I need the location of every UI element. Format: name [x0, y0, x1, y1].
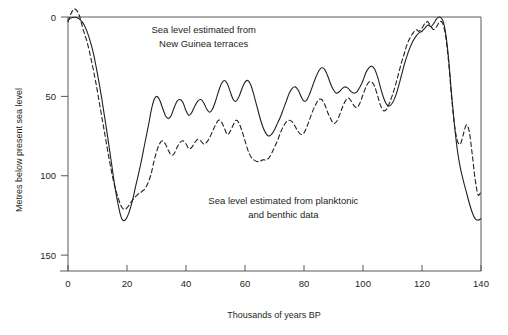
annotation-line: Sea level estimated from planktonic — [208, 195, 358, 206]
x-tick-label: 20 — [122, 278, 133, 289]
plot-frame — [60, 17, 481, 271]
plot-border — [68, 17, 481, 271]
annotation-line: Sea level estimated from — [151, 24, 256, 35]
x-axis-title: Thousands of years BP — [227, 310, 321, 320]
axis-ticks — [61, 17, 481, 271]
planktonic-benthic-annotation: Sea level estimated from planktonicand b… — [208, 195, 358, 220]
annotation-line: and benthic data — [248, 209, 319, 220]
y-tick-label: 100 — [40, 170, 56, 181]
series-planktonic-benthic — [68, 9, 481, 209]
y-tick-label: 150 — [40, 250, 56, 261]
new-guinea-annotation: Sea level estimated fromNew Guinea terra… — [151, 24, 256, 49]
series-new-guinea-terraces — [68, 17, 481, 221]
y-tick-label: 0 — [51, 12, 56, 23]
chart-annotations: Sea level estimated fromNew Guinea terra… — [151, 24, 358, 220]
data-series — [68, 9, 481, 221]
x-tick-label: 60 — [240, 278, 251, 289]
x-tick-label: 40 — [181, 278, 192, 289]
y-axis-title: Metres below present sea level — [14, 88, 24, 212]
x-tick-label: 100 — [355, 278, 371, 289]
annotation-line: New Guinea terraces — [159, 38, 248, 49]
chart-canvas: 020406080100120140050100150 Sea level es… — [0, 0, 508, 335]
sea-level-chart-figure: 020406080100120140050100150 Sea level es… — [0, 0, 508, 335]
x-tick-label: 0 — [65, 278, 70, 289]
x-tick-label: 140 — [473, 278, 489, 289]
x-tick-label: 80 — [299, 278, 310, 289]
y-tick-label: 50 — [45, 91, 56, 102]
x-tick-label: 120 — [414, 278, 430, 289]
